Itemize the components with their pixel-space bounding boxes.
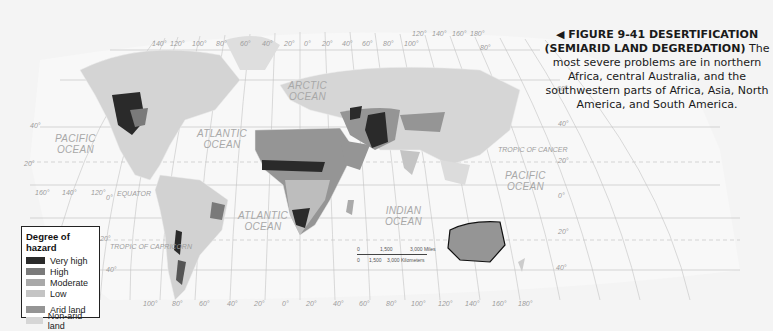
figure-body: most severe problems are in northern Afr… <box>542 56 772 112</box>
atlantic-ocean-north-label: ATLANTICOCEAN <box>197 128 247 150</box>
legend-item-non-arid-land: Non-arid land <box>26 315 95 326</box>
legend-title: Degree of hazard <box>26 231 95 253</box>
scale-bar: 0 1,500 3,000 Miles 0 1,500 3,000 Kilome… <box>355 246 435 266</box>
swatch-arid-land <box>26 306 45 313</box>
swatch-very-high <box>26 257 45 264</box>
swatch-moderate <box>26 279 45 286</box>
legend-item-moderate: Moderate <box>26 277 95 288</box>
figure-body-lead: The <box>749 42 769 55</box>
equator-label: EQUATOR <box>117 190 151 197</box>
figure-title-line2: (SEMIARID LAND DEGREDATION) <box>545 42 746 55</box>
figure-title-line1: ◀ FIGURE 9-41 DESERTIFICATION <box>542 28 772 42</box>
swatch-high <box>26 268 45 275</box>
tropic-of-cancer-label: TROPIC OF CANCER <box>498 146 568 153</box>
figure-caption: ◀ FIGURE 9-41 DESERTIFICATION (SEMIARID … <box>542 28 772 112</box>
swatch-low <box>26 290 45 297</box>
pacific-ocean-west-label: PACIFICOCEAN <box>55 133 96 155</box>
swatch-non-arid-land <box>26 317 43 324</box>
legend-item-low: Low <box>26 288 95 299</box>
arrow-left-icon: ◀ <box>556 28 564 41</box>
legend: Degree of hazard Very high High Moderate… <box>21 226 100 318</box>
tropic-of-capricorn-label: TROPIC OF CAPRICORN <box>110 243 192 250</box>
legend-item-very-high: Very high <box>26 255 95 266</box>
legend-item-high: High <box>26 266 95 277</box>
indian-ocean-label: INDIANOCEAN <box>385 205 422 227</box>
arctic-ocean-label: ARCTICOCEAN <box>288 80 327 102</box>
atlantic-ocean-south-label: ATLANTICOCEAN <box>238 210 288 232</box>
pacific-ocean-east-label: PACIFICOCEAN <box>505 170 546 192</box>
